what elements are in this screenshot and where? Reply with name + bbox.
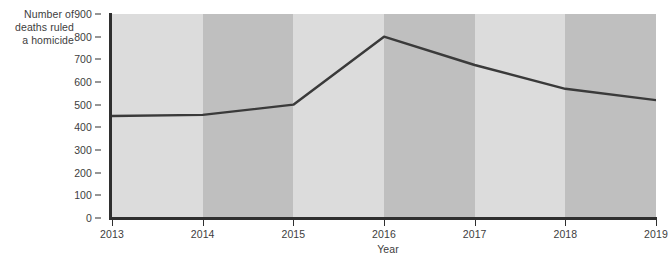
y-axis-tick-mark xyxy=(95,127,101,128)
y-axis-tick-label: 400 xyxy=(60,121,92,133)
x-axis-tick-mark xyxy=(475,220,476,226)
y-axis-tick-mark xyxy=(95,59,101,60)
x-axis-tick-mark xyxy=(112,220,113,226)
x-axis-tick-mark xyxy=(384,220,385,226)
series-polyline xyxy=(112,37,656,116)
y-axis-tick-mark xyxy=(95,172,101,173)
x-axis-tick-label: 2013 xyxy=(100,228,124,240)
y-axis-tick-mark xyxy=(95,218,101,219)
x-axis-tick-mark xyxy=(565,220,566,226)
x-axis-tick-mark xyxy=(203,220,204,226)
y-axis-tick-label: 800 xyxy=(60,31,92,43)
x-axis-title: Year xyxy=(0,243,664,255)
y-axis-tick-mark xyxy=(95,14,101,15)
y-axis-tick-mark xyxy=(95,82,101,83)
y-axis-tick-label: 700 xyxy=(60,53,92,65)
y-axis-tick-label: 200 xyxy=(60,167,92,179)
x-axis-title-text: Year xyxy=(377,243,399,255)
y-axis-tick-mark xyxy=(95,150,101,151)
y-axis-line xyxy=(109,13,112,219)
x-axis-tick-label: 2017 xyxy=(463,228,487,240)
y-axis-tick-label: 100 xyxy=(60,189,92,201)
y-axis-tick-mark xyxy=(95,195,101,196)
x-axis-tick-mark xyxy=(656,220,657,226)
x-axis-tick-label: 2019 xyxy=(644,228,668,240)
y-axis-tick-mark xyxy=(95,36,101,37)
series-line xyxy=(112,14,656,218)
x-axis-line xyxy=(109,217,657,220)
x-axis-tick-label: 2015 xyxy=(281,228,305,240)
x-axis-tick-label: 2018 xyxy=(553,228,577,240)
x-axis-tick-label: 2014 xyxy=(191,228,215,240)
x-axis-tick-mark xyxy=(293,220,294,226)
plot-area xyxy=(112,14,656,218)
y-axis-tick-labels: 0100200300400500600700800900 xyxy=(60,0,92,258)
y-axis-tick-label: 900 xyxy=(60,8,92,20)
x-axis-tick-label: 2016 xyxy=(372,228,396,240)
y-axis-tick-mark xyxy=(95,104,101,105)
y-axis-tick-label: 600 xyxy=(60,76,92,88)
y-axis-tick-label: 300 xyxy=(60,144,92,156)
y-axis-tick-label: 500 xyxy=(60,99,92,111)
y-axis-tick-label: 0 xyxy=(60,212,92,224)
